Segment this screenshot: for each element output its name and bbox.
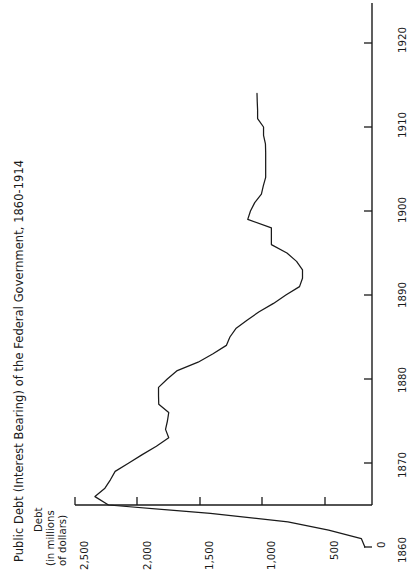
value-axis-ticks <box>75 497 325 505</box>
year-tick-label-1860: 1860 <box>398 537 408 563</box>
value-axis-label-line-2: (in millions <box>46 510 56 566</box>
value-tick-label-500: 500 <box>330 541 340 560</box>
year-tick-label-1870: 1870 <box>398 452 408 478</box>
value-axis-label-line-1: Debt <box>34 507 44 532</box>
value-axis-label-line-3: of dollars) <box>58 515 68 566</box>
year-tick-label-1900: 1900 <box>398 197 408 223</box>
debt-series-line <box>95 93 365 547</box>
chart-title: Public Debt (Interest Bearing) of the Fe… <box>14 160 25 562</box>
value-tick-label-2500: 2,500 <box>80 541 90 570</box>
value-tick-label-1000: 1,000 <box>267 541 277 570</box>
chart-figure: Public Debt (Interest Bearing) of the Fe… <box>0 0 418 575</box>
value-tick-label-0: 0 <box>377 542 387 548</box>
year-tick-label-1910: 1910 <box>398 112 408 138</box>
value-tick-label-1500: 1,500 <box>205 541 215 570</box>
year-tick-label-1920: 1920 <box>398 27 408 53</box>
year-tick-label-1880: 1880 <box>398 367 408 393</box>
value-tick-label-2000: 2,000 <box>143 541 153 570</box>
year-axis-ticks <box>364 43 372 547</box>
year-tick-label-1890: 1890 <box>398 282 408 308</box>
plot-area <box>0 0 418 575</box>
